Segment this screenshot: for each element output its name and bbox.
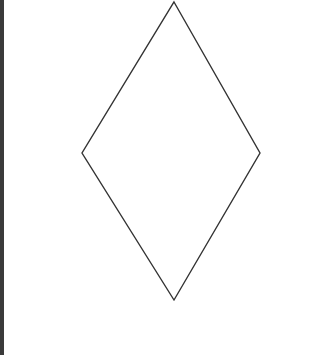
diamond-shape bbox=[82, 2, 260, 300]
diagram-canvas bbox=[0, 0, 325, 355]
